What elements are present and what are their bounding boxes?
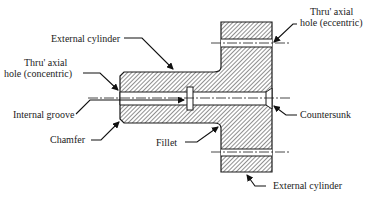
leader-concentric-hole [83, 73, 118, 90]
internal-groove [187, 87, 193, 110]
leader-countersunk [274, 106, 297, 115]
label-concentric-hole-line2: hole (concentric) [4, 68, 72, 80]
leader-external-cylinder-top [124, 38, 173, 69]
leader-fillet [185, 127, 218, 142]
countersink [266, 88, 272, 109]
label-external-cylinder-top: External cylinder [51, 33, 121, 44]
label-internal-groove: Internal groove [13, 109, 75, 120]
label-eccentric-hole-line1: Thru' axial [310, 6, 353, 17]
label-external-cylinder-bottom: External cylinder [273, 180, 343, 191]
leader-chamfer [91, 122, 119, 140]
eccentric-hole-bottom [221, 149, 272, 156]
label-eccentric-hole-line2: hole (eccentric) [300, 17, 362, 29]
part-section-diagram: External cylinder Thru' axial hole (conc… [0, 0, 372, 201]
label-fillet: Fillet [156, 137, 177, 148]
leader-eccentric-hole [274, 24, 297, 42]
leader-external-cylinder-bottom [247, 175, 266, 186]
label-concentric-hole-line1: Thru' axial [24, 57, 67, 68]
label-chamfer: Chamfer [50, 134, 86, 145]
label-countersunk: Countersunk [300, 109, 351, 120]
